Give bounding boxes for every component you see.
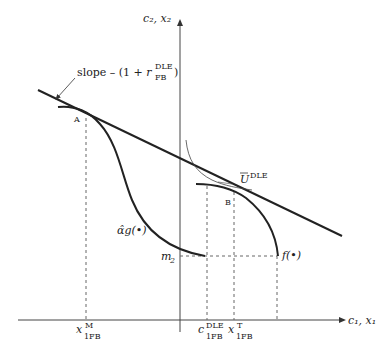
f-curve-label: f(•) xyxy=(281,249,301,262)
x-T-main: x xyxy=(228,323,235,336)
tick-x-M: x M 1FB xyxy=(76,321,101,341)
c-DLE-sub: 1FB xyxy=(206,332,223,341)
slope-var: r xyxy=(146,66,152,79)
tick-c-DLE: c DLE 1FB xyxy=(198,321,224,341)
slope-label: slope – (1 + r DLE FB ) xyxy=(77,62,178,82)
tick-x-T: x T 1FB xyxy=(228,321,253,341)
diagram-canvas: c₂, x₂ c₁, x₁ slope – (1 + r DLE FB ) A … xyxy=(0,0,383,351)
y-axis-label: c₂, x₂ xyxy=(143,12,171,25)
point-B-label: B xyxy=(225,198,231,207)
x-axis-label: c₁, x₁ xyxy=(348,314,376,327)
slope-prefix: slope – (1 + xyxy=(77,66,146,79)
svg-text:slope – (1 + r: slope – (1 + r xyxy=(77,66,152,79)
m2-label: m 2 xyxy=(161,250,175,265)
m2-sub: 2 xyxy=(169,256,175,265)
x-M-main: x xyxy=(76,323,83,336)
indifference-label: U DLE xyxy=(240,171,268,186)
slope-sup: DLE xyxy=(155,62,173,71)
x-T-sup: T xyxy=(237,321,243,330)
slope-sub: FB xyxy=(155,73,167,82)
u-main: U xyxy=(240,173,250,186)
x-T-sub: 1FB xyxy=(236,332,253,341)
point-A-label: A xyxy=(73,115,80,124)
c-DLE-main: c xyxy=(198,323,204,336)
g-curve-label: α̂g(•) xyxy=(117,224,147,237)
f-curve xyxy=(196,184,278,256)
x-M-sub: 1FB xyxy=(84,332,101,341)
c-DLE-sup: DLE xyxy=(206,321,224,330)
slope-pointer xyxy=(57,78,75,98)
slope-suffix: ) xyxy=(174,66,178,79)
u-sup: DLE xyxy=(250,171,268,180)
x-M-sup: M xyxy=(85,321,93,330)
